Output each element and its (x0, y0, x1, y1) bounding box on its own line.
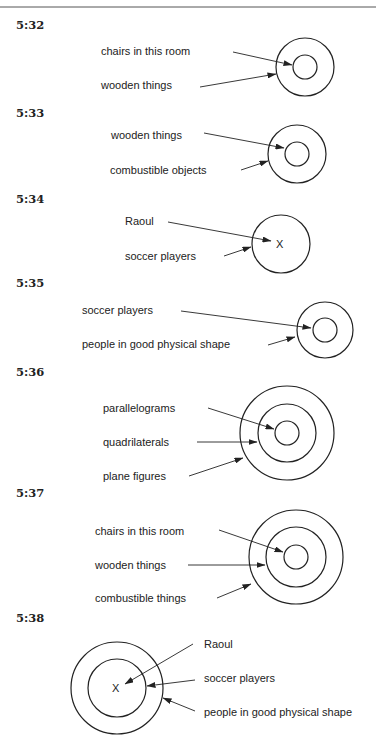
diagram-5-38: 5:38XRaoulsoccer playerspeople in good p… (16, 611, 352, 734)
diagram-5-37: 5:37chairs in this roomwooden thingscomb… (16, 486, 343, 604)
diagram-5-34: 5:34XRaoulsoccer players (16, 192, 310, 273)
arrow-icon (147, 680, 195, 686)
arrow-icon (163, 698, 195, 711)
arrow-icon (189, 458, 243, 476)
arrow-icon (217, 584, 251, 598)
arrow-icon (168, 222, 271, 241)
diagram-heading: 5:32 (16, 18, 44, 32)
set-label: quadrilaterals (103, 436, 170, 448)
set-label: people in good physical shape (204, 706, 352, 718)
diagram-list: 5:32chairs in this roomwooden things5:33… (16, 18, 353, 734)
wooden-things-circle (285, 142, 309, 166)
set-label: chairs in this room (95, 525, 184, 537)
set-label: combustible objects (110, 164, 207, 176)
plane-figures-circle (240, 386, 334, 480)
set-label: wooden things (100, 79, 172, 91)
wooden-things-circle (266, 527, 326, 587)
arrow-icon (233, 52, 292, 65)
arrow-icon (125, 644, 193, 684)
set-label: Raoul (125, 215, 154, 227)
diagram-5-33: 5:33wooden thingscombustible objects (16, 106, 326, 183)
element-x-mark: X (276, 238, 284, 250)
set-label: people in good physical shape (82, 338, 230, 350)
set-label: chairs in this room (101, 45, 190, 57)
wooden-things-circle (276, 38, 334, 96)
set-label: wooden things (110, 129, 182, 141)
venn-diagram-canvas: 5:32chairs in this roomwooden things5:33… (0, 0, 376, 744)
set-label: wooden things (94, 559, 166, 571)
set-label: soccer players (82, 304, 153, 316)
quadrilaterals-circle (258, 404, 316, 462)
people-in-good-physical-shape-circle (297, 302, 353, 358)
chairs-in-this-room-circle (293, 55, 317, 79)
set-label: soccer players (125, 250, 196, 262)
combustible-things-circle (249, 510, 343, 604)
diagram-5-32: 5:32chairs in this roomwooden things (16, 18, 334, 96)
parallelograms-circle (275, 421, 299, 445)
diagram-5-36: 5:36parallelogramsquadrilateralsplane fi… (16, 365, 334, 482)
set-label: parallelograms (103, 402, 176, 414)
arrow-icon (268, 337, 295, 345)
set-label: soccer players (204, 672, 275, 684)
set-label: plane figures (103, 470, 166, 482)
diagram-5-35: 5:35soccer playerspeople in good physica… (16, 276, 353, 358)
arrow-icon (219, 530, 283, 552)
arrow-icon (200, 74, 276, 87)
set-label: combustible things (95, 592, 187, 604)
diagram-heading: 5:34 (16, 192, 44, 206)
arrow-icon (181, 311, 311, 328)
arrow-icon (224, 247, 251, 256)
diagram-heading: 5:38 (16, 611, 44, 625)
set-label: Raoul (204, 638, 233, 650)
element-x-mark: X (112, 682, 120, 694)
diagram-heading: 5:37 (16, 486, 44, 500)
soccer-players-circle (313, 318, 337, 342)
diagram-heading: 5:35 (16, 276, 44, 290)
arrow-icon (241, 161, 268, 170)
chairs-in-this-room-circle (284, 545, 308, 569)
diagram-heading: 5:33 (16, 106, 44, 120)
combustible-objects-circle (268, 125, 326, 183)
diagram-heading: 5:36 (16, 365, 44, 379)
